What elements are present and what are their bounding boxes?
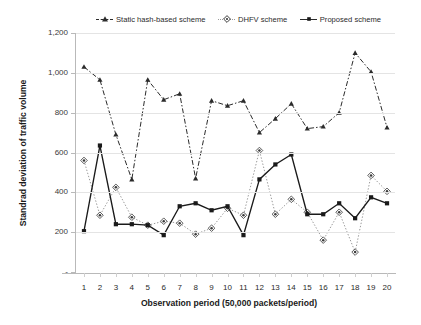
gridline	[76, 232, 395, 233]
diamond-marker-icon	[240, 212, 247, 219]
y-tick-mark	[71, 153, 75, 154]
legend-item-dhfv-scheme: DHFV scheme	[218, 15, 287, 24]
y-tick-label: 200	[30, 228, 68, 236]
triangle-marker-icon	[145, 77, 150, 82]
x-tick-label: 11	[235, 283, 251, 292]
legend-label: DHFV scheme	[238, 15, 287, 24]
x-tick-label: 4	[124, 283, 140, 292]
gridline	[76, 192, 395, 193]
y-tick-label: 1,000	[30, 69, 68, 77]
x-tick-label: 6	[156, 283, 172, 292]
x-tick-mark	[355, 273, 356, 277]
x-tick-label: 20	[379, 283, 395, 292]
diamond-marker-icon	[336, 209, 343, 216]
diamond-marker-icon	[129, 214, 136, 221]
x-tick-label: 18	[347, 283, 363, 292]
square-marker-icon	[209, 208, 213, 212]
square-marker-icon	[257, 177, 261, 181]
gridline	[76, 153, 395, 154]
legend-label: Proposed scheme	[320, 15, 381, 24]
x-tick-label: 19	[363, 283, 379, 292]
x-tick-mark	[291, 273, 292, 277]
diamond-marker-icon	[208, 225, 215, 232]
x-tick-mark	[387, 273, 388, 277]
x-tick-mark	[196, 273, 197, 277]
diamond-marker-icon	[384, 188, 391, 195]
series-dhfv-scheme	[81, 147, 391, 255]
series-static-hash-based-scheme	[81, 50, 389, 181]
square-marker-icon	[98, 143, 102, 147]
x-tick-label: 17	[331, 283, 347, 292]
x-tick-label: 7	[172, 283, 188, 292]
x-tick-mark	[164, 273, 165, 277]
x-tick-mark	[212, 273, 213, 277]
legend-item-static-hash-based-scheme: Static hash-based scheme	[96, 15, 206, 24]
x-tick-mark	[116, 273, 117, 277]
triangle-glyph	[101, 15, 109, 23]
diamond-marker-icon	[320, 237, 327, 244]
triangle-marker-icon	[81, 64, 86, 69]
square-marker-icon	[114, 222, 118, 226]
x-tick-label: 13	[267, 283, 283, 292]
triangle-marker-icon	[177, 91, 182, 96]
y-tick-mark	[71, 192, 75, 193]
diamond-marker-icon	[160, 218, 167, 225]
diamond-marker-icon	[218, 15, 235, 24]
square-marker-icon	[273, 162, 277, 166]
x-tick-mark	[259, 273, 260, 277]
y-tick-mark	[71, 232, 75, 233]
square-marker-icon	[194, 201, 198, 205]
y-tick-mark	[71, 73, 75, 74]
triangle-marker-icon	[129, 177, 134, 182]
x-tick-mark	[180, 273, 181, 277]
chart-container: Static hash-based scheme DHFV scheme Pro…	[0, 0, 421, 325]
triangle-marker-icon	[241, 98, 246, 103]
square-marker-icon	[241, 233, 245, 237]
x-axis-title: Observation period (50,000 packets/perio…	[62, 298, 396, 308]
series-line	[84, 151, 387, 253]
x-axis-line	[62, 273, 396, 274]
diamond-marker-icon	[176, 220, 183, 227]
square-marker-icon	[162, 233, 166, 237]
square-marker-icon	[178, 204, 182, 208]
triangle-marker-icon	[193, 176, 198, 181]
x-tick-label: 12	[251, 283, 267, 292]
series-line	[84, 146, 387, 236]
x-tick-mark	[275, 273, 276, 277]
x-tick-mark	[307, 273, 308, 277]
x-tick-label: 15	[299, 283, 315, 292]
x-tick-mark	[339, 273, 340, 277]
x-tick-label: 1	[76, 283, 92, 292]
square-marker-icon	[225, 204, 229, 208]
square-marker-icon	[300, 15, 317, 24]
diamond-marker-icon	[97, 212, 104, 219]
y-tick-label: 400	[30, 188, 68, 196]
diamond-marker-icon	[352, 249, 359, 256]
x-tick-label: 5	[140, 283, 156, 292]
diamond-marker-icon	[81, 157, 88, 164]
triangle-marker-icon	[96, 15, 113, 24]
diamond-marker-icon	[113, 184, 120, 191]
x-tick-mark	[371, 273, 372, 277]
y-tick-label: 1,200	[30, 29, 68, 37]
square-marker-icon	[353, 216, 357, 220]
square-marker-icon	[385, 201, 389, 205]
x-tick-mark	[228, 273, 229, 277]
x-tick-label: 2	[92, 283, 108, 292]
y-tick-label: 800	[30, 109, 68, 117]
triangle-marker-icon	[384, 125, 389, 130]
y-tick-label: 600	[30, 149, 68, 157]
y-tick-mark	[71, 33, 75, 34]
triangle-marker-icon	[305, 126, 310, 131]
x-tick-label: 14	[283, 283, 299, 292]
x-tick-label: 3	[108, 283, 124, 292]
x-tick-mark	[100, 273, 101, 277]
x-tick-label: 16	[315, 283, 331, 292]
x-tick-mark	[323, 273, 324, 277]
plot-area	[76, 33, 395, 272]
triangle-marker-icon	[113, 132, 118, 137]
x-tick-mark	[84, 273, 85, 277]
x-tick-mark	[148, 273, 149, 277]
triangle-marker-icon	[289, 101, 294, 106]
triangle-marker-icon	[353, 50, 358, 55]
